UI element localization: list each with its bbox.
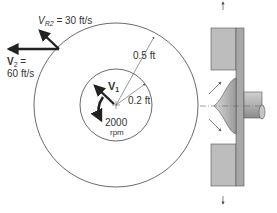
vr2-arrow	[40, 31, 59, 49]
v1-label: V1	[108, 80, 119, 93]
speed-value: 2000	[105, 117, 128, 128]
speed-unit: rpm	[110, 128, 124, 137]
impeller-side-view	[200, 28, 265, 186]
v2-value: 60 ft/s	[7, 68, 34, 79]
flow-arrow-upper-diag	[209, 82, 221, 94]
vr2-label: VR2 = 30 ft/s	[38, 15, 92, 27]
flow-arrow-lower-diag	[209, 119, 221, 131]
rotation-arrow-icon	[98, 97, 103, 120]
centrifugal-pump-diagram: 0.5 ft 0.2 ft V1 2000 rpm VR2 = 30 ft/s …	[0, 0, 277, 213]
outer-radius-label: 0.5 ft	[133, 50, 155, 61]
inner-radius-label: 0.2 ft	[128, 95, 150, 106]
v2-label: V2 =	[7, 56, 26, 68]
